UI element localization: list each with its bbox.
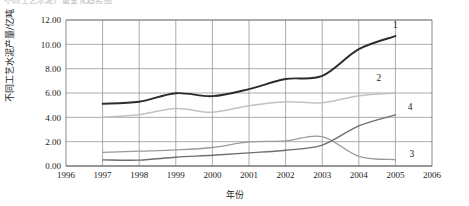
y-tick-labels: 0.002.004.006.008.0010.0012.00 [41, 15, 62, 171]
x-tick-label: 1999 [167, 170, 186, 180]
x-tick-label: 2006 [423, 170, 442, 180]
x-tick-label: 2002 [277, 170, 295, 180]
x-tick-label: 1996 [57, 170, 76, 180]
figure-root: 不同工艺水泥产量变化趋势图 不同工艺水泥产量/亿吨 0.002.004.006.… [0, 0, 469, 206]
x-tick-label: 2001 [240, 170, 258, 180]
x-tick-labels: 1996199719981999200020012002200320042005… [57, 170, 442, 180]
line-chart-plot: 0.002.004.006.008.0010.0012.00 199619971… [0, 0, 469, 206]
x-tick-label: 2003 [313, 170, 332, 180]
x-tick-label: 1997 [94, 170, 113, 180]
y-tick-label: 10.00 [41, 40, 62, 50]
y-tick-label: 12.00 [41, 15, 62, 25]
series-label-1: 1 [393, 20, 398, 30]
series-label-3: 3 [409, 149, 414, 159]
x-tick-label: 1998 [130, 170, 149, 180]
y-tick-label: 4.00 [45, 113, 61, 123]
y-tick-label: 2.00 [45, 137, 61, 147]
y-tick-label: 8.00 [45, 64, 61, 74]
y-tick-label: 6.00 [45, 88, 61, 98]
series-label-4: 4 [408, 102, 413, 112]
x-tick-label: 2000 [203, 170, 222, 180]
series-label-2: 2 [377, 73, 382, 83]
x-tick-label: 2005 [386, 170, 405, 180]
x-axis-title: 年份 [0, 188, 469, 201]
x-tick-label: 2004 [350, 170, 369, 180]
